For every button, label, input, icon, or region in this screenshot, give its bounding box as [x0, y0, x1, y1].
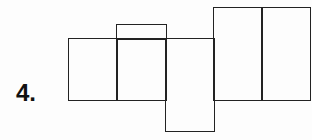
face-right-a — [213, 7, 263, 101]
problem-4: 4. — [0, 0, 312, 140]
face-top-tab — [116, 24, 167, 40]
face-left — [68, 38, 118, 101]
face-center-left — [116, 38, 167, 101]
problem-number: 4. — [16, 79, 36, 107]
face-right-b — [261, 7, 311, 101]
face-middle-column — [165, 38, 215, 132]
